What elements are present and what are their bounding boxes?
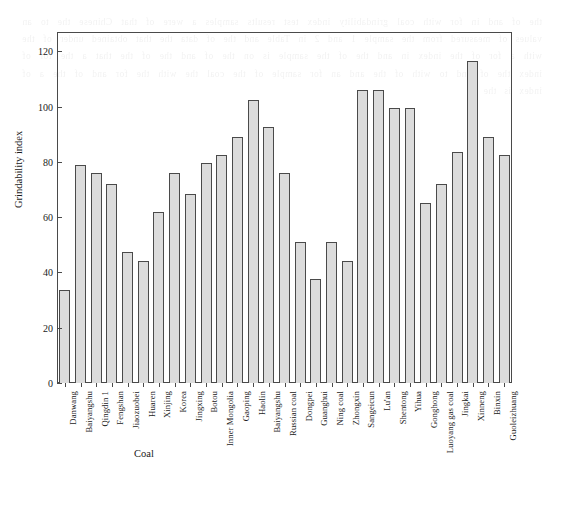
x-tick-label: Guanghui bbox=[319, 391, 329, 426]
bars-layer bbox=[57, 32, 512, 383]
bar bbox=[389, 108, 400, 383]
x-tick-label: Botou bbox=[209, 391, 219, 413]
bar bbox=[232, 137, 243, 383]
y-tick-label: 0 bbox=[48, 378, 53, 389]
x-tick-mark bbox=[426, 383, 427, 387]
x-tick-mark bbox=[112, 383, 113, 387]
x-tick-label: Inner Mongolia bbox=[225, 391, 235, 446]
y-tick-label: 120 bbox=[38, 46, 53, 57]
x-tick-mark bbox=[300, 383, 301, 387]
bar bbox=[75, 165, 86, 383]
x-tick-label: Korea bbox=[178, 391, 188, 413]
bar bbox=[326, 242, 337, 383]
x-tick-label: Sangeicun bbox=[366, 391, 376, 428]
bar bbox=[373, 90, 384, 383]
y-tick-label: 60 bbox=[43, 212, 53, 223]
y-tick-label: 20 bbox=[43, 322, 53, 333]
y-tick-mark bbox=[57, 107, 62, 108]
x-tick-mark bbox=[410, 383, 411, 387]
bar bbox=[201, 163, 212, 383]
x-tick-mark bbox=[65, 383, 66, 387]
x-tick-mark bbox=[143, 383, 144, 387]
x-tick-label: Luoyang gas coal bbox=[445, 391, 455, 453]
x-tick-mark bbox=[473, 383, 474, 387]
y-tick-mark bbox=[57, 383, 62, 384]
x-tick-mark bbox=[253, 383, 254, 387]
x-tick-mark bbox=[316, 383, 317, 387]
x-axis-title: Coal bbox=[134, 448, 154, 459]
bar bbox=[279, 173, 290, 383]
x-tick-label: Ning coal bbox=[335, 391, 345, 426]
x-tick-mark bbox=[175, 383, 176, 387]
x-tick-mark bbox=[457, 383, 458, 387]
x-tick-label: Shentong bbox=[398, 391, 408, 424]
x-tick-label: Gaoping bbox=[241, 391, 251, 421]
x-tick-label: Xinneng bbox=[476, 391, 486, 421]
bar bbox=[483, 137, 494, 383]
x-tick-mark bbox=[488, 383, 489, 387]
bar bbox=[420, 203, 431, 383]
x-tick-label: Qingdin 1 bbox=[100, 391, 110, 427]
x-tick-label: Guoleizhuang bbox=[508, 391, 518, 440]
x-tick-mark bbox=[269, 383, 270, 387]
x-tick-label: Jingkai bbox=[460, 391, 470, 417]
x-tick-mark bbox=[222, 383, 223, 387]
x-tick-label: Yihua bbox=[413, 391, 423, 412]
x-tick-mark bbox=[332, 383, 333, 387]
y-tick-mark bbox=[57, 217, 62, 218]
x-tick-mark bbox=[285, 383, 286, 387]
bar bbox=[216, 155, 227, 383]
x-tick-label: Gonghong bbox=[429, 391, 439, 428]
x-tick-label: Xinjing bbox=[162, 391, 172, 418]
bar bbox=[499, 155, 510, 383]
bar bbox=[185, 194, 196, 383]
x-tick-label: Lu'an bbox=[382, 391, 392, 411]
x-tick-label: Baiyangshu bbox=[84, 391, 94, 433]
x-tick-label: Dongpei bbox=[304, 391, 314, 421]
y-axis-title: Grindability index bbox=[13, 131, 24, 208]
x-tick-label: Danwang bbox=[68, 391, 78, 425]
x-tick-mark bbox=[379, 383, 380, 387]
x-tick-mark bbox=[190, 383, 191, 387]
y-tick-label: 40 bbox=[43, 267, 53, 278]
x-tick-mark bbox=[441, 383, 442, 387]
bar bbox=[248, 100, 259, 383]
bar bbox=[138, 261, 149, 383]
y-tick-mark bbox=[57, 272, 62, 273]
bar bbox=[310, 279, 321, 383]
y-tick-mark bbox=[57, 51, 62, 52]
x-tick-label: Baiyangshu bbox=[272, 391, 282, 433]
x-tick-mark bbox=[347, 383, 348, 387]
x-tick-mark bbox=[159, 383, 160, 387]
bar bbox=[436, 184, 447, 383]
x-tick-mark bbox=[206, 383, 207, 387]
x-tick-label: Jiaozuobei bbox=[131, 391, 141, 429]
x-tick-mark bbox=[128, 383, 129, 387]
y-tick-mark bbox=[57, 328, 62, 329]
x-tick-mark bbox=[394, 383, 395, 387]
bar bbox=[91, 173, 102, 383]
x-tick-label: Huaren bbox=[147, 391, 157, 417]
y-tick-label: 100 bbox=[38, 101, 53, 112]
x-tick-mark bbox=[81, 383, 82, 387]
bar bbox=[342, 261, 353, 383]
x-tick-label: Russian coal bbox=[288, 391, 298, 436]
bar bbox=[169, 173, 180, 383]
x-tick-mark bbox=[96, 383, 97, 387]
bar bbox=[452, 152, 463, 383]
bar bbox=[405, 108, 416, 383]
x-tick-label: Binxin bbox=[492, 391, 502, 415]
x-tick-label: Haolin bbox=[257, 391, 267, 415]
y-tick-mark bbox=[57, 162, 62, 163]
bar bbox=[295, 242, 306, 383]
grindability-index-bar-chart: 020406080100120 Grindability index Danwa… bbox=[0, 0, 564, 506]
y-axis-ticks: 020406080100120 bbox=[0, 0, 53, 506]
y-tick-label: 80 bbox=[43, 156, 53, 167]
bar bbox=[153, 212, 164, 383]
bar bbox=[467, 61, 478, 383]
bar bbox=[59, 290, 70, 383]
bar bbox=[122, 252, 133, 383]
bar bbox=[263, 127, 274, 383]
bar bbox=[106, 184, 117, 383]
x-tick-mark bbox=[237, 383, 238, 387]
